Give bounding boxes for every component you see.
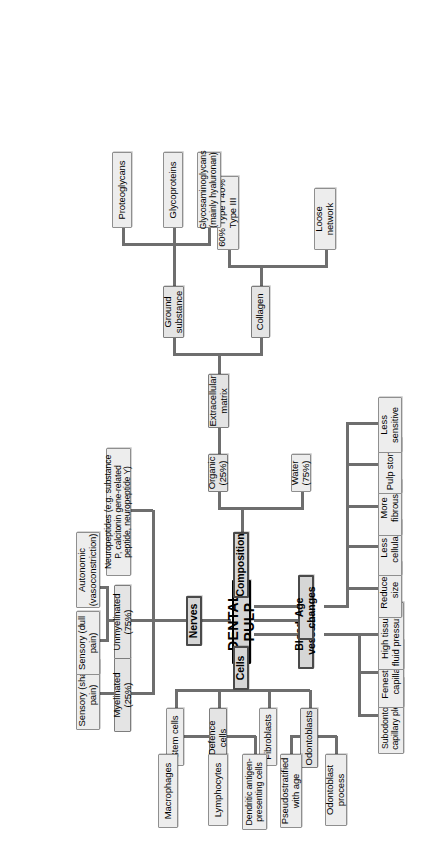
connector-center-down bbox=[254, 619, 298, 622]
connector-unmyelinated-c2 bbox=[100, 586, 108, 589]
connector-age-c3 bbox=[346, 505, 378, 508]
connector-age-c5 bbox=[346, 422, 378, 425]
connector-defence-c3 bbox=[254, 736, 257, 754]
node-unmyelinated-label: Unmyelinated (75%) bbox=[112, 588, 133, 656]
diagram-rotation-wrapper: DENTAL PULP Nerves Cells Composition Blo… bbox=[0, 0, 444, 842]
connector-ground-c2 bbox=[173, 228, 176, 246]
node-glycosaminoglycans-label: Glycosaminoglycans (mainly hyaluronan) bbox=[199, 151, 219, 230]
connector-collagen-bus bbox=[228, 265, 328, 268]
connector-odontoblasts-c1 bbox=[290, 736, 293, 754]
node-autonomic-label: Autonomic (vasoconstriction) bbox=[77, 534, 98, 607]
node-ground-substance-label: Ground substance bbox=[163, 289, 184, 335]
connector-age-c2 bbox=[346, 545, 378, 548]
node-less-sensitive[interactable]: Less sensitive bbox=[378, 397, 402, 453]
connector-comp-c1 bbox=[218, 492, 221, 510]
node-ground-substance[interactable]: Ground substance bbox=[163, 286, 184, 338]
node-fibroblasts-label: Fibroblasts bbox=[263, 714, 274, 759]
node-collagen-label: Collagen bbox=[255, 294, 266, 331]
node-glycoproteins-label: Glycoproteins bbox=[168, 162, 179, 219]
connector-composition-stem bbox=[241, 510, 244, 534]
node-glycosaminoglycans[interactable]: Glycosaminoglycans (mainly hyaluronan) bbox=[197, 152, 221, 228]
connector-ground-c1 bbox=[122, 228, 125, 246]
branch-cells-label: Cells bbox=[235, 656, 247, 681]
node-sensory-dull-label: Sensory (dull pain) bbox=[77, 614, 98, 672]
connector-to-neuropeptides bbox=[131, 509, 153, 512]
connector-age-bus bbox=[346, 425, 349, 608]
node-odontoblast-process[interactable]: Odontoblast process bbox=[325, 754, 347, 826]
connector-cells-c2 bbox=[218, 690, 221, 708]
connector-blood-stem bbox=[324, 633, 358, 636]
connector-collagen-c2 bbox=[325, 250, 328, 268]
connector-cells-c3 bbox=[268, 690, 271, 708]
branch-node-composition[interactable]: Composition bbox=[233, 532, 249, 598]
branch-node-nerves[interactable]: Nerves bbox=[186, 596, 202, 646]
connector-collagen-stem bbox=[260, 268, 263, 286]
node-water[interactable]: Water (75%) bbox=[291, 454, 311, 492]
node-stem-cells-label: Stem cells bbox=[170, 716, 181, 759]
connector-blood-bus bbox=[358, 633, 361, 717]
node-pseudostratified-with-age[interactable]: Pseudostratified with age bbox=[280, 754, 302, 828]
connector-ecm-c2 bbox=[260, 338, 263, 356]
connector-blood-c1 bbox=[358, 714, 378, 717]
connector-nerves-stem bbox=[152, 619, 186, 622]
node-proteoglycans[interactable]: Proteoglycans bbox=[112, 152, 132, 228]
node-loose-network-label: Loose network bbox=[314, 191, 335, 247]
connector-to-myelinated bbox=[131, 692, 153, 695]
connector-ground-stem bbox=[173, 246, 176, 286]
node-odontoblast-process-label: Odontoblast process bbox=[325, 757, 346, 823]
dental-pulp-mind-map: DENTAL PULP Nerves Cells Composition Blo… bbox=[0, 0, 444, 842]
connector-collagen-c1 bbox=[228, 250, 231, 268]
connector-age-c4 bbox=[346, 463, 378, 466]
node-proteoglycans-label: Proteoglycans bbox=[117, 161, 128, 220]
node-macrophages[interactable]: Macrophages bbox=[158, 754, 178, 828]
node-macrophages-label: Macrophages bbox=[163, 763, 174, 819]
node-unmyelinated[interactable]: Unmyelinated (75%) bbox=[114, 585, 131, 659]
node-organic[interactable]: Organic (25%) bbox=[208, 454, 228, 492]
branch-node-cells[interactable]: Cells bbox=[233, 646, 249, 690]
connector-ground-bus bbox=[122, 243, 210, 246]
connector-ecm-c1 bbox=[173, 338, 176, 356]
connector-ecm-bus bbox=[173, 353, 263, 356]
branch-composition-label: Composition bbox=[235, 533, 247, 596]
node-extracellular-matrix-label: Extracellular matrix bbox=[208, 376, 229, 427]
node-less-sensitive-label: Less sensitive bbox=[379, 400, 400, 450]
node-dendritic-antigen-presenting-cells[interactable]: Dendritic antigen-presenting cells bbox=[242, 754, 267, 830]
connector-odontoblasts-c2 bbox=[335, 736, 338, 754]
branch-node-age-changes[interactable]: Age changes bbox=[298, 575, 314, 640]
connector-to-unmyelinated bbox=[131, 619, 153, 622]
node-myelinated[interactable]: Myelinated (25%) bbox=[114, 658, 131, 732]
node-lymphocytes[interactable]: Lymphocytes bbox=[208, 754, 228, 826]
connector-unmyelinated-c1 bbox=[100, 639, 108, 642]
connector-blood-c3 bbox=[358, 633, 378, 636]
branch-nerves-label: Nerves bbox=[188, 604, 200, 638]
node-neuropeptides-label: Neuropeptides (e.g. substance P, calcito… bbox=[104, 451, 133, 573]
connector-ecm-stem bbox=[218, 356, 221, 374]
connector-composition-bus bbox=[218, 507, 304, 510]
connector-cells-c1 bbox=[175, 690, 178, 708]
node-extracellular-matrix[interactable]: Extracellular matrix bbox=[208, 374, 229, 428]
connector-center-down-3 bbox=[254, 605, 298, 608]
connector-blood-c2 bbox=[358, 671, 378, 674]
branch-age-changes-label: Age changes bbox=[294, 579, 318, 636]
node-glycoproteins[interactable]: Glycoproteins bbox=[163, 152, 183, 228]
connector-center-down-2 bbox=[254, 633, 298, 636]
node-lymphocytes-label: Lymphocytes bbox=[213, 763, 224, 818]
connector-organic-ecm bbox=[218, 428, 221, 454]
node-odontoblasts-label: Odontoblasts bbox=[304, 711, 315, 766]
node-organic-label: Organic (25%) bbox=[207, 457, 228, 490]
connector-unmyelinated-bus bbox=[106, 586, 109, 642]
node-dendritic-label: Dendritic antigen-presenting cells bbox=[245, 757, 265, 827]
connector-ground-c3 bbox=[208, 228, 211, 246]
node-collagen[interactable]: Collagen bbox=[251, 286, 270, 338]
node-sensory-dull-pain[interactable]: Sensory (dull pain) bbox=[76, 611, 100, 675]
connector-cells-c4 bbox=[309, 690, 312, 708]
node-neuropeptides[interactable]: Neuropeptides (e.g. substance P, calcito… bbox=[106, 448, 131, 576]
connector-comp-c2 bbox=[301, 492, 304, 510]
node-loose-network[interactable]: Loose network bbox=[314, 188, 336, 250]
node-pseudostratified-label: Pseudostratified with age bbox=[280, 757, 301, 825]
connector-age-stem bbox=[324, 605, 346, 608]
node-autonomic-vasoconstriction[interactable]: Autonomic (vasoconstriction) bbox=[76, 532, 100, 608]
node-odontoblasts[interactable]: Odontoblasts bbox=[300, 708, 318, 768]
connector-nerves-bus bbox=[152, 510, 155, 695]
node-water-label: Water (75%) bbox=[290, 457, 311, 489]
